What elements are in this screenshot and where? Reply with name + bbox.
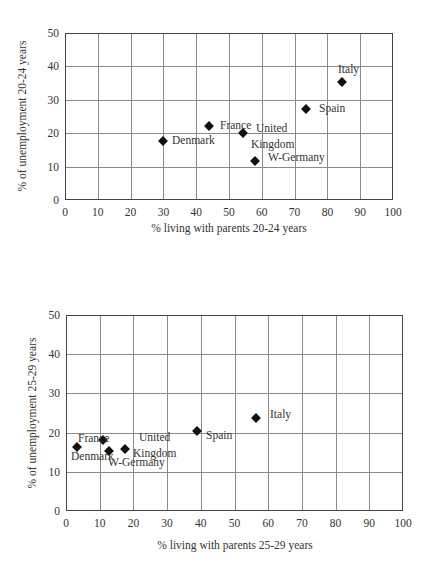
gridline-horizontal bbox=[67, 354, 402, 355]
x-tick-label: 90 bbox=[364, 517, 376, 529]
point-label-france: France bbox=[78, 432, 109, 445]
y-axis-label: % of unemployment 25-29 years bbox=[26, 338, 38, 489]
gridline-vertical bbox=[133, 316, 134, 510]
gridline-vertical bbox=[196, 34, 197, 199]
x-tick-label: 40 bbox=[195, 517, 207, 529]
gridline-vertical bbox=[163, 34, 164, 199]
x-tick-label: 30 bbox=[158, 206, 170, 218]
y-tick-label: 40 bbox=[40, 348, 60, 360]
gridline-vertical bbox=[327, 34, 328, 199]
y-tick-label: 20 bbox=[39, 127, 59, 139]
y-tick-label: 50 bbox=[40, 309, 60, 321]
gridline-horizontal bbox=[67, 472, 402, 473]
y-tick-label: 30 bbox=[39, 94, 59, 106]
point-label-denmark: Denmark bbox=[172, 134, 215, 147]
point-label-spain: Spain bbox=[319, 102, 345, 115]
y-tick-label: 10 bbox=[40, 466, 60, 478]
gridline-vertical bbox=[167, 316, 168, 510]
x-tick-label: 100 bbox=[394, 517, 411, 529]
plot-area bbox=[65, 33, 393, 200]
gridline-horizontal bbox=[66, 167, 392, 168]
x-tick-label: 60 bbox=[256, 206, 268, 218]
gridline-vertical bbox=[360, 34, 361, 199]
x-tick-label: 80 bbox=[322, 206, 334, 218]
point-label-italy: Italy bbox=[338, 63, 359, 76]
point-label-france: France bbox=[220, 119, 251, 132]
gridline-horizontal bbox=[66, 100, 392, 101]
y-tick-label: 50 bbox=[39, 27, 59, 39]
plot-area bbox=[66, 315, 403, 511]
gridline-vertical bbox=[295, 34, 296, 199]
y-tick-label: 10 bbox=[39, 161, 59, 173]
x-tick-label: 70 bbox=[296, 517, 308, 529]
x-tick-label: 60 bbox=[262, 517, 274, 529]
point-label-italy: Italy bbox=[270, 408, 291, 421]
x-tick-label: 20 bbox=[125, 206, 137, 218]
gridline-vertical bbox=[98, 34, 99, 199]
gridline-vertical bbox=[262, 34, 263, 199]
gridline-horizontal bbox=[67, 433, 402, 434]
x-axis-label: % living with parents 25-29 years bbox=[157, 539, 313, 551]
y-tick-label: 0 bbox=[39, 194, 59, 206]
y-axis-label: % of unemployment 20-24 years bbox=[16, 41, 28, 192]
x-tick-label: 10 bbox=[94, 517, 106, 529]
x-tick-label: 70 bbox=[289, 206, 301, 218]
x-tick-label: 100 bbox=[384, 206, 401, 218]
point-label-uk-line2: Kingdom bbox=[133, 447, 176, 460]
x-tick-label: 0 bbox=[63, 517, 69, 529]
x-axis-label: % living with parents 20-24 years bbox=[151, 222, 307, 234]
y-tick-label: 30 bbox=[40, 387, 60, 399]
x-tick-label: 10 bbox=[92, 206, 104, 218]
gridline-horizontal bbox=[67, 393, 402, 394]
point-label-w-germany: W-Germany bbox=[268, 151, 325, 164]
gridline-vertical bbox=[201, 316, 202, 510]
gridline-vertical bbox=[229, 34, 230, 199]
y-tick-label: 40 bbox=[39, 60, 59, 72]
y-tick-label: 20 bbox=[40, 427, 60, 439]
x-tick-label: 40 bbox=[190, 206, 202, 218]
x-tick-label: 50 bbox=[229, 517, 241, 529]
x-tick-label: 50 bbox=[223, 206, 235, 218]
point-label-uk-line1: United bbox=[256, 122, 287, 135]
point-label-uk-line2: Kingdom bbox=[251, 138, 294, 151]
point-label-spain: Spain bbox=[206, 429, 232, 442]
gridline-vertical bbox=[302, 316, 303, 510]
x-tick-label: 90 bbox=[354, 206, 366, 218]
x-tick-label: 80 bbox=[330, 517, 342, 529]
gridline-vertical bbox=[100, 316, 101, 510]
x-tick-label: 20 bbox=[128, 517, 140, 529]
y-tick-label: 0 bbox=[40, 505, 60, 517]
x-tick-label: 30 bbox=[161, 517, 173, 529]
point-label-uk-line1: United bbox=[139, 431, 170, 444]
gridline-vertical bbox=[235, 316, 236, 510]
x-tick-label: 0 bbox=[62, 206, 68, 218]
gridline-vertical bbox=[336, 316, 337, 510]
gridline-vertical bbox=[131, 34, 132, 199]
gridline-vertical bbox=[369, 316, 370, 510]
gridline-horizontal bbox=[66, 133, 392, 134]
